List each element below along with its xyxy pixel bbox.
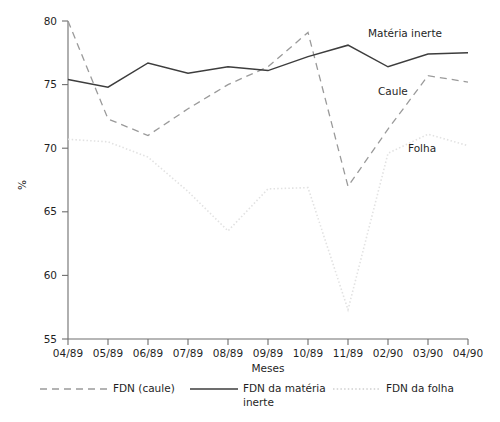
series-annotation-label: Folha [408,142,436,154]
x-tick-label: 02/90 [373,347,403,359]
series-annotation-label: Matéria inerte [368,27,442,39]
x-tick-label: 11/89 [333,347,363,359]
legend-label: FDN (caule) [113,382,175,394]
line-chart: 556065707580 04/8905/8906/8907/8908/8909… [0,0,500,422]
series-annotation-label: Caule [378,85,408,97]
legend-label: FDN da matéria [243,382,326,394]
y-tick-label: 70 [44,142,57,154]
series-group [68,21,468,310]
y-axis-ticks: 556065707580 [44,15,68,345]
legend-label: FDN da folha [386,382,454,394]
y-tick-label: 60 [44,269,57,281]
x-tick-label: 03/90 [413,347,443,359]
x-axis-title: Meses [252,362,285,374]
series-annotations: Matéria inerteCauleFolha [368,27,442,154]
legend-label-line2: inerte [243,396,274,408]
y-tick-label: 65 [44,205,57,217]
x-tick-label: 07/89 [173,347,203,359]
y-tick-label: 80 [44,15,57,27]
x-tick-label: 06/89 [133,347,163,359]
y-axis-title: % [16,180,28,190]
x-tick-label: 10/89 [293,347,323,359]
x-tick-label: 08/89 [213,347,243,359]
x-tick-label: 05/89 [93,347,123,359]
x-axis-ticks: 04/8905/8906/8907/8908/8909/8910/8911/89… [53,339,483,359]
chart-legend: FDN (caule)FDN da matériainerteFDN da fo… [40,382,454,408]
chart-container: 556065707580 04/8905/8906/8907/8908/8909… [0,0,500,422]
y-tick-label: 75 [44,78,57,90]
y-tick-label: 55 [44,333,57,345]
x-tick-label: 09/89 [253,347,283,359]
x-tick-label: 04/90 [453,347,483,359]
series-line-folha [68,134,468,310]
x-tick-label: 04/89 [53,347,83,359]
series-line-caule [68,21,468,186]
